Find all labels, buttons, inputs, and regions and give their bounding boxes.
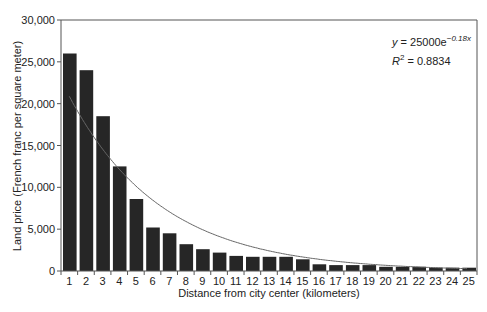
bar-12 — [246, 257, 260, 271]
x-tick-label: 14 — [279, 275, 291, 287]
bar-11 — [229, 256, 243, 271]
x-tick-label: 16 — [313, 275, 325, 287]
x-tick-label: 9 — [199, 275, 205, 287]
x-tick-label: 15 — [296, 275, 308, 287]
bar-2 — [80, 70, 94, 271]
x-tick-label: 12 — [246, 275, 258, 287]
y-axis-title: Land price (French franc per square mete… — [11, 41, 23, 251]
bar-5 — [130, 199, 144, 271]
bar-15 — [296, 259, 310, 271]
x-tick-label: 6 — [149, 275, 155, 287]
bar-13 — [263, 257, 277, 271]
bar-7 — [163, 233, 177, 271]
svg-text:y = 25000e−0.18x: y = 25000e−0.18x — [391, 34, 472, 48]
bar-8 — [180, 244, 194, 271]
bar-21 — [396, 267, 410, 271]
x-tick-label: 20 — [379, 275, 391, 287]
y-axis: 05,00010,00015,00020,00025,00030,000 — [21, 14, 61, 277]
x-tick-label: 17 — [329, 275, 341, 287]
y-tick-label: 15,000 — [21, 140, 55, 152]
bar-18 — [346, 265, 360, 271]
x-tick-label: 21 — [396, 275, 408, 287]
x-tick-label: 13 — [263, 275, 275, 287]
y-tick-label: 10,000 — [21, 181, 55, 193]
chart: 05,00010,00015,00020,00025,00030,000 123… — [0, 0, 487, 312]
bar-19 — [363, 265, 377, 271]
bar-4 — [113, 166, 127, 271]
bar-17 — [329, 265, 343, 271]
x-axis: 1234567891011121314151617181920212223242… — [61, 271, 477, 287]
equation-annotation: y = 25000e−0.18x R2 = 0.8834 — [391, 34, 472, 67]
y-tick-label: 30,000 — [21, 14, 55, 26]
bar-9 — [196, 249, 210, 271]
x-tick-label: 23 — [429, 275, 441, 287]
y-tick-label: 5,000 — [27, 223, 55, 235]
x-tick-label: 5 — [133, 275, 139, 287]
trendline — [69, 96, 467, 268]
x-tick-label: 10 — [213, 275, 225, 287]
x-tick-label: 25 — [463, 275, 475, 287]
bar-1 — [63, 54, 77, 272]
bar-14 — [279, 257, 293, 271]
x-tick-label: 11 — [230, 275, 241, 287]
x-tick-label: 24 — [446, 275, 458, 287]
x-tick-label: 19 — [363, 275, 375, 287]
x-tick-label: 7 — [166, 275, 172, 287]
x-tick-label: 3 — [100, 275, 106, 287]
bars — [63, 54, 476, 272]
bar-10 — [213, 253, 227, 271]
y-tick-label: 20,000 — [21, 98, 55, 110]
equation-exponent: −0.18x — [447, 34, 472, 43]
x-tick-label: 4 — [116, 275, 122, 287]
x-axis-title: Distance from city center (kilometers) — [178, 287, 360, 299]
bar-16 — [313, 264, 327, 271]
x-tick-label: 8 — [183, 275, 189, 287]
svg-text:R2 = 0.8834: R2 = 0.8834 — [392, 53, 451, 67]
x-tick-label: 1 — [66, 275, 72, 287]
bar-6 — [146, 228, 160, 272]
x-tick-label: 2 — [83, 275, 89, 287]
equation-text: = 25000e — [398, 36, 447, 48]
bar-20 — [379, 267, 393, 271]
x-tick-label: 22 — [413, 275, 425, 287]
y-tick-label: 25,000 — [21, 56, 55, 68]
x-tick-label: 18 — [346, 275, 358, 287]
bar-3 — [96, 116, 110, 271]
y-tick-label: 0 — [49, 265, 55, 277]
